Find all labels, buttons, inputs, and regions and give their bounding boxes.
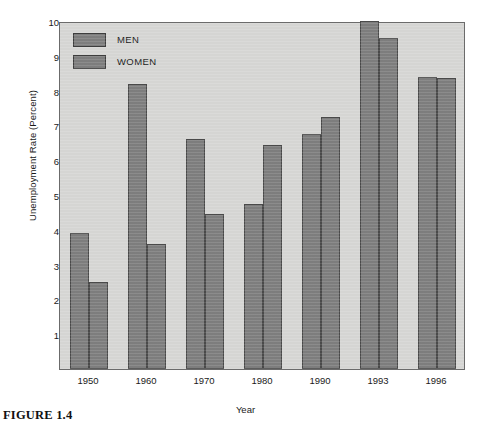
y-axis-tick-labels: 12345678910 [30,22,59,370]
bar-women-1960 [147,244,166,369]
y-tick-label: 3 [37,260,59,271]
bar-women-1950 [89,282,108,369]
bar-women-1993 [379,38,398,369]
legend-label-women: WOMEN [117,56,156,67]
legend-swatch-women [73,55,106,69]
x-tick-label: 1950 [65,375,111,386]
y-tick-label: 4 [37,225,59,236]
figure-caption: FIGURE 1.4 [3,408,78,423]
bar-women-1970 [205,214,224,369]
x-tick-label: 1996 [413,375,459,386]
x-tick-label: 1990 [297,375,343,386]
legend-item-women: WOMEN [73,52,156,71]
figure-container: Unemployment Rate (Percent) 12345678910 … [0,0,491,427]
figure-label: FIGURE 1.4 [3,408,72,423]
bar-women-1990 [321,117,340,369]
y-tick-label: 8 [37,86,59,97]
y-tick-label: 5 [37,191,59,202]
bar-men-1990 [302,134,321,369]
x-tick-label: 1980 [239,375,285,386]
bar-women-1980 [263,145,282,369]
y-tick-label: 9 [37,51,59,62]
x-tick-label: 1960 [123,375,169,386]
bar-women-1996 [437,78,456,369]
bar-men-1970 [186,139,205,369]
bar-men-1950 [70,233,89,369]
y-tick-label: 2 [37,295,59,306]
x-tick-label: 1970 [181,375,227,386]
bar-men-1996 [418,77,437,369]
y-tick-label: 1 [37,330,59,341]
y-tick-label: 6 [37,156,59,167]
bar-men-1960 [128,84,147,369]
y-tick-label: 7 [37,121,59,132]
plot-area: MEN WOMEN [59,22,465,370]
chart-legend: MEN WOMEN [73,30,156,74]
legend-item-men: MEN [73,30,156,49]
bar-men-1980 [244,204,263,369]
x-tick-label: 1993 [355,375,401,386]
bar-men-1993 [360,21,379,369]
bars-layer [60,23,464,369]
y-tick-label: 10 [37,17,59,28]
legend-label-men: MEN [117,34,139,45]
legend-swatch-men [73,33,106,47]
